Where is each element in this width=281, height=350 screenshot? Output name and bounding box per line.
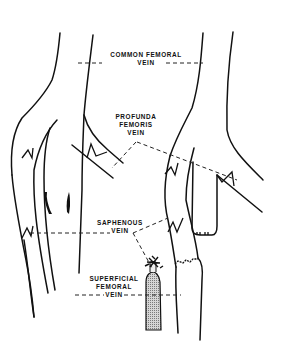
label-line: VEIN (84, 291, 144, 299)
label-line: COMMON FEMORAL (104, 51, 188, 59)
label-line: FEMORAL (84, 283, 144, 291)
label-line: SUPERFICIAL (84, 275, 144, 283)
label-line: VEIN (104, 59, 188, 67)
label-line: VEIN (90, 227, 150, 235)
ligated-vein-stump (145, 256, 163, 330)
label-saphenous-vein: SAPHENOUS VEIN (90, 219, 150, 235)
leader-lines (30, 63, 237, 295)
vein-anatomy-diagram: COMMON FEMORAL VEIN PROFUNDA FEMORIS VEI… (0, 0, 281, 350)
label-line: FEMORIS (106, 121, 166, 129)
label-line: VEIN (106, 129, 166, 137)
label-line: PROFUNDA (106, 113, 166, 121)
label-common-femoral-vein: COMMON FEMORAL VEIN (104, 51, 188, 67)
label-profunda-femoris-vein: PROFUNDA FEMORIS VEIN (106, 113, 166, 137)
right-vein-system (165, 32, 263, 340)
label-line: SAPHENOUS (90, 219, 150, 227)
label-superficial-femoral-vein: SUPERFICIAL FEMORAL VEIN (84, 275, 144, 299)
